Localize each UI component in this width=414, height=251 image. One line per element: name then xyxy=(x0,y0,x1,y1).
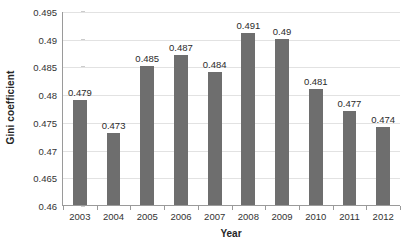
bar[interactable] xyxy=(107,133,121,205)
plot-area: 0.4790.4730.4850.4870.4840.4910.490.4810… xyxy=(62,12,400,206)
x-axis-tick-mark xyxy=(366,206,367,210)
bar-slot: 0.479 xyxy=(63,12,97,205)
bar-slot: 0.485 xyxy=(130,12,164,205)
bar-value-label: 0.484 xyxy=(203,59,227,70)
bar[interactable] xyxy=(208,72,222,205)
x-axis-category-label: 2004 xyxy=(97,211,131,222)
x-axis-tick-mark xyxy=(333,206,334,210)
bar-slot: 0.477 xyxy=(333,12,367,205)
y-axis-title-text: Gini coefficient xyxy=(6,71,17,145)
bar[interactable] xyxy=(275,39,289,205)
x-axis-category-label: 2006 xyxy=(164,211,198,222)
y-axis-tick-label: 0.46 xyxy=(39,201,58,212)
x-axis-tick-mark xyxy=(164,206,165,210)
y-axis-tick-label: 0.48 xyxy=(39,90,58,101)
bar-value-label: 0.485 xyxy=(135,53,159,64)
y-axis-tick-label: 0.47 xyxy=(39,145,58,156)
bar-value-label: 0.473 xyxy=(102,120,126,131)
x-axis-tick-mark xyxy=(63,206,64,210)
y-axis-tick-label: 0.485 xyxy=(33,62,57,73)
bar[interactable] xyxy=(174,55,188,205)
bar-value-label: 0.49 xyxy=(273,26,292,37)
bar-value-label: 0.487 xyxy=(169,42,193,53)
x-axis-title: Year xyxy=(62,228,400,239)
y-axis-tick-label: 0.49 xyxy=(39,34,58,45)
bar-value-label: 0.479 xyxy=(68,87,92,98)
x-axis-category-label: 2005 xyxy=(130,211,164,222)
bar[interactable] xyxy=(343,111,357,205)
y-axis-tick-label: 0.475 xyxy=(33,117,57,128)
x-axis-category-label: 2008 xyxy=(232,211,266,222)
bar[interactable] xyxy=(376,127,390,205)
bar-slot: 0.487 xyxy=(164,12,198,205)
bar-slot: 0.481 xyxy=(299,12,333,205)
bar[interactable] xyxy=(140,66,154,205)
bar[interactable] xyxy=(241,33,255,205)
bar-value-label: 0.477 xyxy=(338,98,362,109)
x-axis-tick-mark xyxy=(97,206,98,210)
x-axis-category-label: 2009 xyxy=(265,211,299,222)
y-axis-tick-label: 0.465 xyxy=(33,173,57,184)
x-axis-tick-mark xyxy=(400,206,401,210)
x-axis-category-label: 2003 xyxy=(63,211,97,222)
x-axis-category-label: 2010 xyxy=(299,211,333,222)
bar-slot: 0.49 xyxy=(265,12,299,205)
bar-slot: 0.474 xyxy=(366,12,400,205)
x-axis-category-labels: 2003200420052006200720082009201020112012 xyxy=(63,211,400,222)
bar-slot: 0.491 xyxy=(232,12,266,205)
x-axis-tick-mark xyxy=(232,206,233,210)
bar-slot: 0.473 xyxy=(97,12,131,205)
y-axis-title: Gini coefficient xyxy=(0,0,22,215)
bar[interactable] xyxy=(73,100,87,205)
y-axis-tick-label: 0.495 xyxy=(33,7,57,18)
y-axis-tick-labels: 0.4950.490.4850.480.4750.470.4650.46 xyxy=(22,12,60,206)
x-axis-tick-mark xyxy=(130,206,131,210)
bar-value-label: 0.491 xyxy=(236,20,260,31)
bar-chart: Gini coefficient 0.4950.490.4850.480.475… xyxy=(0,0,414,251)
x-axis-category-label: 2007 xyxy=(198,211,232,222)
bars-layer: 0.4790.4730.4850.4870.4840.4910.490.4810… xyxy=(63,12,400,205)
x-axis-tick-mark xyxy=(198,206,199,210)
bar-value-label: 0.474 xyxy=(371,114,395,125)
x-axis-category-label: 2011 xyxy=(333,211,367,222)
x-axis-category-label: 2012 xyxy=(366,211,400,222)
bar[interactable] xyxy=(309,89,323,205)
bar-slot: 0.484 xyxy=(198,12,232,205)
x-axis-tick-mark xyxy=(299,206,300,210)
bar-value-label: 0.481 xyxy=(304,76,328,87)
x-axis-tick-mark xyxy=(265,206,266,210)
